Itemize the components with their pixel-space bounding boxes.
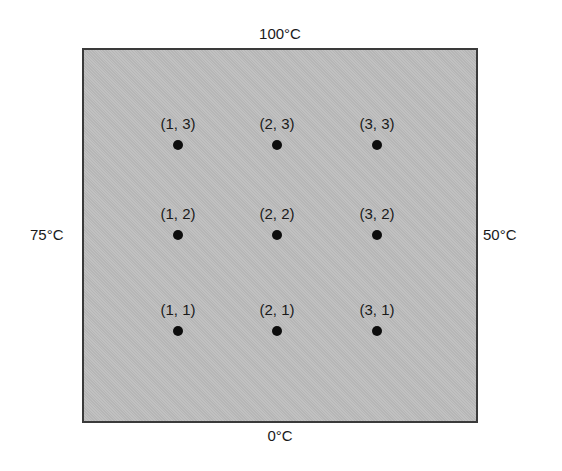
bottom-temperature: 0°C xyxy=(267,427,292,444)
top-temperature: 100°C xyxy=(259,25,301,42)
node-dot-icon xyxy=(272,140,282,150)
bottom-boundary-label: 0°C xyxy=(0,427,562,444)
node-dot-icon xyxy=(272,230,282,240)
left-boundary-label: 75°C xyxy=(30,226,64,243)
node-dot-icon xyxy=(173,230,183,240)
node-label: (3, 2) xyxy=(337,205,417,222)
node-label: (3, 3) xyxy=(337,115,417,132)
node-label: (1, 2) xyxy=(138,205,218,222)
top-boundary-label: 100°C xyxy=(0,25,562,42)
node-dot-icon xyxy=(173,140,183,150)
node-dot-icon xyxy=(372,230,382,240)
node-dot-icon xyxy=(372,140,382,150)
right-boundary-label: 50°C xyxy=(483,226,517,243)
node-label: (2, 1) xyxy=(237,301,317,318)
node-label: (3, 1) xyxy=(337,301,417,318)
node-dot-icon xyxy=(372,326,382,336)
node-label: (1, 1) xyxy=(138,301,218,318)
node-dot-icon xyxy=(272,326,282,336)
node-dot-icon xyxy=(173,326,183,336)
node-label: (1, 3) xyxy=(138,115,218,132)
node-label: (2, 2) xyxy=(237,205,317,222)
node-label: (2, 3) xyxy=(237,115,317,132)
